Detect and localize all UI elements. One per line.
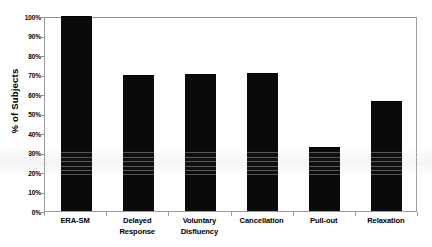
y-axis-tick-label: 60%	[14, 92, 41, 99]
x-axis-category-labels: ERA-SMDelayedResponseVoluntaryDisfluency…	[44, 216, 417, 247]
x-axis-tick-mark	[44, 212, 45, 216]
y-axis-tick-mark	[40, 37, 44, 38]
x-axis-category-label-line: Relaxation	[367, 216, 404, 225]
x-axis-category-label: Cancellation	[231, 216, 293, 227]
x-axis-tick-mark	[231, 212, 232, 216]
x-axis-tick-mark	[355, 212, 356, 216]
y-axis-tick-label: 80%	[14, 53, 41, 60]
x-axis-category-label: Relaxation	[355, 216, 417, 227]
y-axis-tick-label: 90%	[14, 33, 41, 40]
x-axis-category-label-line: Cancellation	[240, 216, 284, 225]
y-axis-tick-label: 10%	[14, 189, 41, 196]
x-axis-category-label: Pull-out	[293, 216, 355, 227]
x-axis-tick-mark	[293, 212, 294, 216]
bar	[247, 73, 278, 211]
x-axis-category-label-line: Disfluency	[168, 227, 230, 238]
y-axis-tick-mark	[40, 154, 44, 155]
y-axis-tick-mark	[40, 17, 44, 18]
bar-chart-figure: % of Subjects 100%90%80%70%60%50%40%30%2…	[0, 0, 432, 247]
y-axis-tick-mark	[40, 56, 44, 57]
bars-layer	[45, 18, 416, 211]
y-axis-tick-label: 40%	[14, 131, 41, 138]
x-axis-tick-mark	[106, 212, 107, 216]
y-axis-tick-mark	[40, 76, 44, 77]
y-axis-tick-mark	[40, 134, 44, 135]
x-axis-tick-mark	[417, 212, 418, 216]
bar	[309, 147, 340, 211]
plot-area	[44, 17, 417, 212]
y-axis-tick-label: 70%	[14, 72, 41, 79]
y-axis-tick-label: 20%	[14, 170, 41, 177]
x-axis-category-label: VoluntaryDisfluency	[168, 216, 230, 237]
y-axis-tick-labels: 100%90%80%70%60%50%40%30%20%10%0%	[14, 11, 41, 217]
x-axis-category-label: ERA-SM	[44, 216, 106, 227]
x-axis-category-label-line: Pull-out	[310, 216, 337, 225]
y-axis-tick-mark	[40, 193, 44, 194]
bar	[371, 101, 402, 211]
x-axis-category-label-line: Delayed	[123, 216, 151, 225]
bar	[185, 74, 216, 211]
x-axis-category-label-line: Response	[106, 227, 168, 238]
y-axis-tick-mark	[40, 173, 44, 174]
y-axis-tick-mark	[40, 115, 44, 116]
y-axis-tick-label: 0%	[14, 209, 41, 216]
x-axis-category-label-line: Voluntary	[183, 216, 217, 225]
bar	[123, 75, 154, 212]
y-axis-tick-label: 30%	[14, 150, 41, 157]
x-axis-category-label: DelayedResponse	[106, 216, 168, 237]
y-axis-tick-mark	[40, 95, 44, 96]
y-axis-tick-label: 100%	[14, 14, 41, 21]
bar	[61, 16, 92, 211]
x-axis-tick-mark	[168, 212, 169, 216]
x-axis-category-label-line: ERA-SM	[60, 216, 89, 225]
y-axis-tick-label: 50%	[14, 111, 41, 118]
